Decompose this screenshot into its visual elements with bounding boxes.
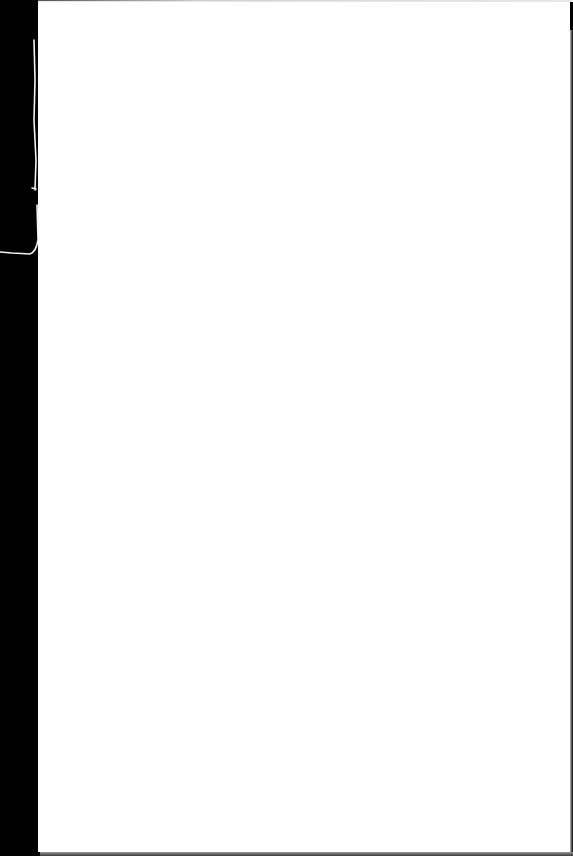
paper-bottom-edge [40, 852, 573, 856]
blank-paper-sheet [38, 1, 570, 852]
photo-scene [0, 0, 573, 856]
